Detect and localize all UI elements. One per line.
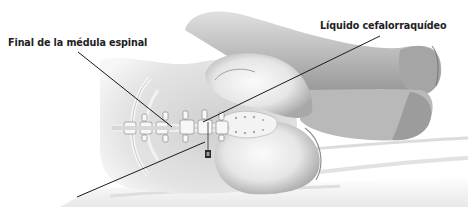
- sacrum: [222, 111, 277, 138]
- label-cerebrospinal-fluid: Líquido cefalorraquídeo: [320, 20, 447, 31]
- lumbar-puncture-illustration: Final de la médula espinal Líquido cefal…: [0, 0, 468, 207]
- lower-leg: [300, 89, 433, 140]
- label-spinal-cord-end: Final de la médula espinal: [8, 37, 147, 48]
- illustration-svg: [0, 0, 468, 207]
